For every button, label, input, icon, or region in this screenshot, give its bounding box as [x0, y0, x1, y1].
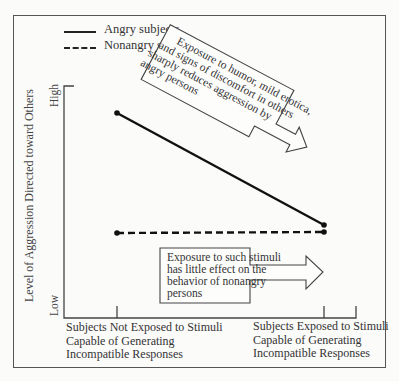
x-label-not-exposed-line-2: Capable of Generating	[66, 335, 223, 349]
nonangry-callout-line-2: has little effect on the	[167, 263, 266, 276]
x-label-not-exposed: Subjects Not Exposed to Stimuli Capable …	[66, 321, 223, 362]
nonangry-callout-line-3: behavior of nonangry	[167, 275, 266, 288]
nonangry-callout-line-1: Exposure to such stimuli	[167, 251, 281, 264]
x-label-exposed: Subjects Exposed to Stimuli Capable of G…	[253, 320, 389, 361]
x-label-exposed-line-3: Incompatible Responses	[253, 347, 389, 361]
x-label-not-exposed-line-1: Subjects Not Exposed to Stimuli	[66, 321, 223, 335]
x-label-exposed-line-2: Capable of Generating	[253, 334, 389, 348]
x-label-not-exposed-line-3: Incompatible Responses	[66, 348, 223, 362]
nonangry-callout-line-4: persons	[167, 287, 202, 300]
x-label-exposed-line-1: Subjects Exposed to Stimuli	[253, 320, 389, 334]
